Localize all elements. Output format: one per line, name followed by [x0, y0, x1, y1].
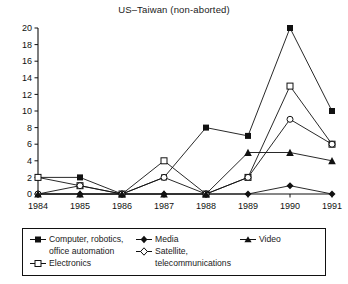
x-tick-label: 1984	[28, 201, 48, 211]
data-point-marker	[245, 191, 252, 198]
filled-diamond-icon	[135, 234, 153, 245]
chart-title: US–Taiwan (non-aborted)	[0, 4, 348, 15]
data-point-marker	[287, 182, 294, 189]
y-tick-label: 2	[27, 173, 32, 183]
y-tick-label: 0	[27, 189, 32, 199]
series-line	[34, 149, 336, 198]
data-point-marker	[329, 141, 335, 147]
legend-label-computer-robotics-line2: office automation	[49, 246, 114, 257]
filled-triangle-icon	[239, 234, 257, 245]
x-tick-label: 1986	[112, 201, 132, 211]
y-tick-label: 12	[22, 90, 32, 100]
data-point-marker	[245, 133, 251, 139]
y-tick-label: 20	[22, 23, 32, 33]
legend-label-satellite-line1: Satellite,	[155, 246, 188, 257]
data-point-marker	[77, 174, 83, 180]
data-point-marker	[77, 183, 83, 189]
data-point-marker	[329, 108, 335, 114]
legend-label-computer-robotics-line1: Computer, robotics,	[49, 234, 124, 245]
x-tick-label: 1985	[70, 201, 90, 211]
legend-label-media: Media	[155, 234, 178, 245]
data-point-marker	[329, 191, 336, 198]
legend-label-satellite-line2: telecommunications	[155, 258, 231, 269]
plot-area: 0246810121416182019841985198619871988198…	[0, 18, 348, 218]
data-point-marker	[35, 174, 41, 180]
data-point-marker	[287, 116, 293, 122]
x-tick-label: 1987	[154, 201, 174, 211]
y-tick-label: 6	[27, 139, 32, 149]
y-tick-label: 10	[22, 106, 32, 116]
legend-label-video: Video	[259, 234, 281, 245]
legend-label-electronics: Electronics	[49, 258, 91, 269]
x-tick-label: 1991	[322, 201, 342, 211]
data-point-marker	[287, 25, 293, 31]
open-square-icon	[29, 258, 47, 269]
y-tick-label: 16	[22, 56, 32, 66]
open-circle-icon	[135, 246, 153, 257]
data-point-marker	[161, 174, 167, 180]
x-tick-label: 1990	[280, 201, 300, 211]
chart-legend: Computer, robotics, office automation El…	[22, 228, 326, 276]
data-point-marker	[287, 83, 293, 89]
data-point-marker	[161, 158, 167, 164]
y-tick-label: 4	[27, 156, 32, 166]
x-tick-label: 1989	[238, 201, 258, 211]
plot-svg: 0246810121416182019841985198619871988198…	[0, 18, 348, 218]
y-tick-label: 18	[22, 40, 32, 50]
chart-figure: US–Taiwan (non-aborted) 0246810121416182…	[0, 0, 348, 284]
series-line	[35, 25, 335, 197]
y-tick-label: 8	[27, 123, 32, 133]
x-tick-label: 1988	[196, 201, 216, 211]
data-point-marker	[245, 174, 251, 180]
y-tick-label: 14	[22, 73, 32, 83]
filled-square-icon	[29, 234, 47, 245]
data-point-marker	[203, 125, 209, 131]
